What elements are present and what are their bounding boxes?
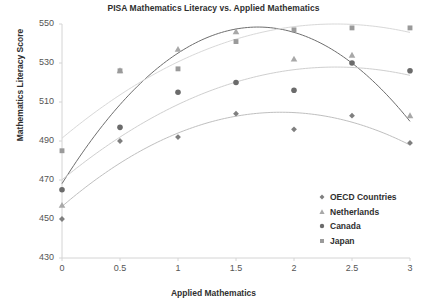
legend-label: Japan (330, 236, 355, 246)
legend-item-netherlands[interactable]: Netherlands (316, 205, 424, 220)
data-point-netherlands (407, 112, 414, 118)
triangle-marker-icon (316, 207, 328, 217)
data-point-japan (176, 66, 181, 71)
data-point-japan (118, 68, 123, 73)
plot-area (0, 0, 427, 306)
legend-label: Netherlands (330, 207, 379, 217)
data-point-japan (350, 25, 355, 30)
data-point-japan (408, 25, 413, 30)
trendline-netherlands (62, 27, 410, 184)
data-point-japan (60, 148, 65, 153)
data-point-canada (59, 187, 65, 193)
data-point-oecd-countries (59, 216, 65, 222)
legend-item-oecd-countries[interactable]: OECD Countries (316, 190, 424, 205)
data-point-canada (291, 88, 297, 94)
legend-label: OECD Countries (330, 192, 397, 202)
data-point-japan (234, 39, 239, 44)
data-point-canada (117, 125, 123, 131)
data-point-canada (233, 80, 239, 86)
data-point-canada (407, 68, 413, 74)
legend-item-canada[interactable]: Canada (316, 219, 424, 234)
chart-container: PISA Mathematics Literacy vs. Applied Ma… (0, 0, 427, 306)
data-point-netherlands (291, 56, 298, 62)
data-point-oecd-countries (349, 113, 355, 119)
data-point-japan (292, 27, 297, 32)
chart-legend: OECD CountriesNetherlandsCanadaJapan (316, 190, 424, 248)
circle-marker-icon (316, 221, 328, 231)
data-point-netherlands (175, 46, 182, 52)
data-point-canada (175, 89, 181, 95)
data-point-oecd-countries (175, 134, 181, 140)
legend-label: Canada (330, 221, 361, 231)
data-point-canada (349, 60, 355, 66)
legend-item-japan[interactable]: Japan (316, 234, 424, 249)
data-point-netherlands (349, 52, 356, 58)
data-point-oecd-countries (407, 140, 413, 146)
diamond-marker-icon (316, 192, 328, 202)
data-point-oecd-countries (291, 126, 297, 132)
square-marker-icon (316, 236, 328, 246)
